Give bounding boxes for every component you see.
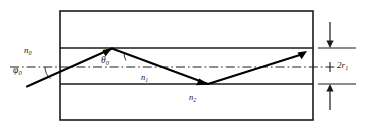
fiber-ray-diagram: n0 φ0 θ0 n1 n2 2r1	[0, 0, 366, 129]
dimension-arrow-upper-head	[326, 41, 333, 49]
label-n0: n0	[24, 46, 32, 56]
ray-segment-top-to-bottom	[112, 49, 208, 85]
label-theta0: θ0	[101, 56, 109, 66]
ray-segment-bottom-to-exit	[208, 54, 303, 84]
diagram-canvas	[0, 0, 366, 129]
label-n2: n2	[189, 93, 196, 103]
dimension-arrow-lower-head	[326, 84, 333, 92]
outer-boundary-rect	[60, 11, 313, 120]
label-phi0: φ0	[13, 66, 22, 76]
label-core-diameter: 2r1	[337, 61, 348, 71]
label-n1: n1	[141, 73, 148, 83]
